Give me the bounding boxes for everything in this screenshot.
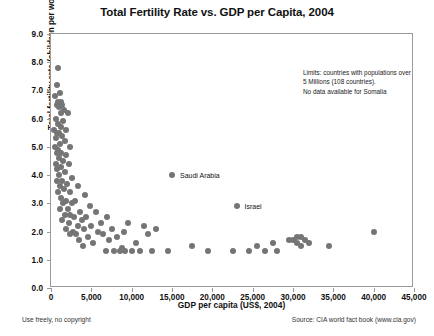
x-tick-mark [293,288,294,292]
y-tick-mark [47,34,51,35]
data-point [65,110,71,116]
data-point [371,229,377,235]
data-point [189,243,195,249]
data-point [230,248,236,254]
chart-annotation: Limits: countries with populations over5… [303,68,434,96]
data-point [298,243,304,249]
x-tick-mark [132,288,133,292]
data-point [87,203,93,209]
y-tick-mark [47,203,51,204]
data-point [114,234,120,240]
y-tick-label: 7.0 [17,86,43,95]
data-point [165,248,171,254]
y-tick-label: 2.0 [17,227,43,236]
footer-left-note: Use freely, no copyright [22,316,91,323]
data-point [62,169,68,175]
data-point [262,248,268,254]
data-point [66,161,72,167]
y-tick-mark [47,260,51,261]
data-point [169,172,175,178]
data-point [63,127,69,133]
data-point [69,175,75,181]
y-tick-label: 0.0 [17,284,43,293]
data-point [145,231,151,237]
data-point [85,234,91,240]
y-tick-mark [47,147,51,148]
data-point [254,243,260,249]
annotation-line: No data available for Somalia [303,87,434,96]
plot-area: 0.01.02.03.04.05.06.07.08.09.0 05,00010,… [50,33,413,287]
data-point [153,226,159,232]
scatter-chart: Total Fertility Rate vs. GDP per Capita,… [0,0,434,336]
data-point [67,231,73,237]
data-point [103,248,109,254]
annotation-line: 5 Millions (108 countries). [303,77,434,86]
data-point [149,248,155,254]
data-point [54,82,60,88]
point-label: Saudi Arabia [180,172,220,179]
x-tick-mark [91,288,92,292]
point-label: Israel [245,203,262,210]
data-point [109,226,115,232]
x-tick-mark [333,288,334,292]
annotation-line: Limits: countries with populations over [303,68,434,77]
data-point [88,223,94,229]
data-point [117,248,123,254]
y-tick-mark [47,232,51,233]
data-point [90,240,96,246]
data-point [59,217,65,223]
data-point [270,240,276,246]
y-tick-label: 6.0 [17,114,43,123]
data-point [246,248,252,254]
data-point [98,220,104,226]
x-tick-mark [374,288,375,292]
data-point [81,226,87,232]
x-tick-mark [253,288,254,292]
data-point [67,189,73,195]
data-point [71,214,77,220]
data-point [141,223,147,229]
chart-title: Total Fertility Rate vs. GDP per Capita,… [0,6,434,18]
y-tick-label: 8.0 [17,58,43,67]
x-tick-mark [51,288,52,292]
y-tick-label: 1.0 [17,255,43,264]
y-tick-label: 4.0 [17,171,43,180]
data-point [55,65,61,71]
data-point [75,223,81,229]
x-axis-title: GDP per capita (US$, 2004) [50,300,413,310]
data-point [77,209,83,215]
data-point [75,183,81,189]
data-point [57,206,63,212]
y-tick-mark [47,119,51,120]
data-point [67,144,73,150]
data-point [326,243,332,249]
x-tick-mark [172,288,173,292]
y-tick-label: 5.0 [17,142,43,151]
y-tick-mark [47,90,51,91]
data-point [121,229,127,235]
data-point [82,192,88,198]
data-point [137,248,143,254]
data-point [100,231,106,237]
data-point [234,203,240,209]
data-point [306,240,312,246]
data-point [104,214,110,220]
data-point [58,110,64,116]
footer-source-note: Source: CIA world fact book (www.cia.gov… [292,316,416,323]
data-point [133,240,139,246]
data-point [129,248,135,254]
data-point [80,243,86,249]
data-point [79,217,85,223]
data-point [93,209,99,215]
data-point [205,248,211,254]
data-point [111,248,117,254]
y-tick-label: 3.0 [17,199,43,208]
data-point [125,220,131,226]
data-point [274,248,280,254]
x-tick-mark [212,288,213,292]
data-point [122,248,128,254]
y-tick-label: 9.0 [17,30,43,39]
data-point [69,200,75,206]
y-tick-mark [47,62,51,63]
y-tick-mark [47,175,51,176]
